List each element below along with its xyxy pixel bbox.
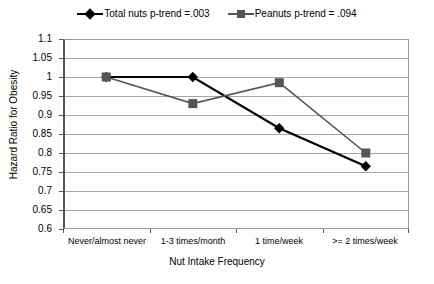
data-point-marker <box>275 78 284 87</box>
series-layer <box>0 0 434 284</box>
data-point-marker <box>361 161 371 171</box>
data-point-marker <box>102 73 111 82</box>
series-line-peanuts <box>106 77 366 153</box>
data-point-marker <box>188 99 197 108</box>
data-point-marker <box>188 72 198 82</box>
hazard-ratio-line-chart: Total nuts p-trend =.003 Peanuts p-trend… <box>0 0 434 284</box>
data-point-marker <box>361 149 370 158</box>
data-point-marker <box>274 123 284 133</box>
